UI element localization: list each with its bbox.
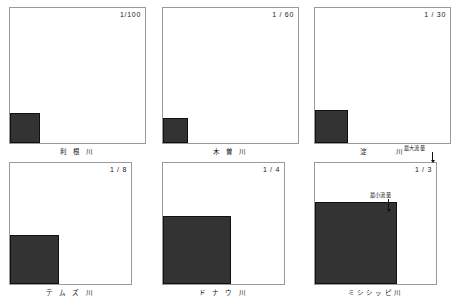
river-flow-ratio-figure: 1/100 利 根 川 1 / 60 木 曽 川 1 / 30 淀 川 1 / … bbox=[0, 0, 462, 305]
flow-ratio-square bbox=[315, 202, 397, 284]
flow-ratio-square bbox=[10, 235, 59, 284]
scale-label: 1 / 3 bbox=[415, 165, 432, 174]
flow-ratio-square bbox=[163, 216, 231, 284]
annotation-min-flow-label: 最小流量 bbox=[370, 192, 391, 198]
river-name-label: 淀 川 bbox=[314, 148, 451, 156]
scale-label: 1 / 8 bbox=[110, 165, 127, 174]
panel-danube: 1 / 4 ド ナ ウ 川 bbox=[162, 162, 285, 285]
scale-label: 1 / 60 bbox=[272, 10, 294, 19]
flow-ratio-square bbox=[10, 113, 40, 143]
scale-label: 1 / 4 bbox=[263, 165, 280, 174]
river-name-label: ド ナ ウ 川 bbox=[162, 289, 285, 297]
river-name-label: テ ム ズ 川 bbox=[9, 289, 132, 297]
annotation-max-flow-label: 最大流量 bbox=[404, 145, 425, 151]
panel-kiso-gawa: 1 / 60 木 曽 川 bbox=[162, 7, 299, 144]
panel-mississippi: 1 / 3 ミシシッピ川 bbox=[314, 162, 437, 285]
flow-ratio-square bbox=[315, 110, 348, 143]
river-name-label: ミシシッピ川 bbox=[314, 289, 437, 297]
scale-label: 1/100 bbox=[120, 10, 141, 19]
panel-tone-gawa: 1/100 利 根 川 bbox=[9, 7, 146, 144]
river-name-label: 木 曽 川 bbox=[162, 148, 299, 156]
panel-thames: 1 / 8 テ ム ズ 川 bbox=[9, 162, 132, 285]
scale-label: 1 / 30 bbox=[424, 10, 446, 19]
flow-ratio-square bbox=[163, 118, 188, 143]
river-name-label: 利 根 川 bbox=[9, 148, 146, 156]
panel-yodo-gawa: 1 / 30 淀 川 bbox=[314, 7, 451, 144]
